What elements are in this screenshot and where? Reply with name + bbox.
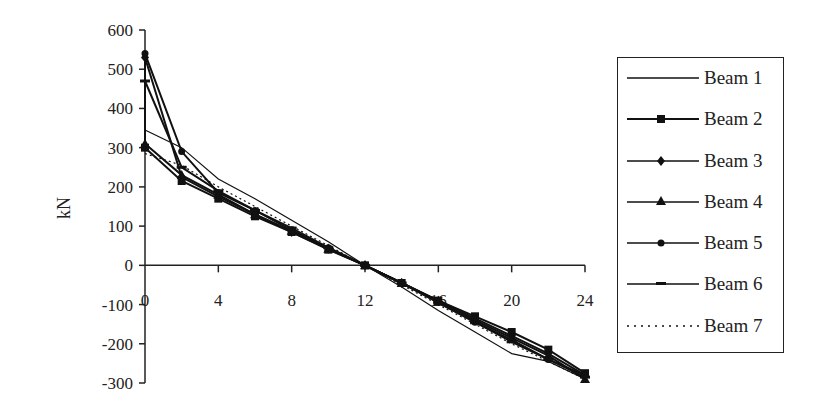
series-beam-3 — [141, 52, 589, 380]
legend-item-beam-1: Beam 1 — [618, 63, 783, 93]
legend-item-beam-3: Beam 3 — [618, 146, 783, 176]
legend-label: Beam 5 — [704, 232, 763, 254]
y-tick-label: 500 — [108, 60, 134, 79]
line-swatch-icon — [627, 68, 699, 88]
legend-item-beam-7: Beam 7 — [618, 311, 783, 341]
triangle-marker-icon — [627, 192, 699, 212]
legend-item-beam-4: Beam 4 — [618, 187, 783, 217]
x-tick-label: 12 — [357, 291, 374, 310]
y-tick-label: 300 — [108, 139, 134, 158]
y-tick-label: 0 — [125, 256, 134, 275]
square-marker-icon — [627, 109, 699, 129]
x-tick-label: 4 — [214, 291, 223, 310]
legend: Beam 1 Beam 2 Beam 3 Beam 4 Beam 5 Beam … — [617, 57, 784, 353]
x-axis: 04812162024 — [141, 265, 594, 310]
series-beam-6 — [140, 79, 590, 378]
legend-label: Beam 3 — [704, 150, 763, 172]
x-tick-label: 8 — [287, 291, 296, 310]
y-tick-label: 600 — [108, 21, 134, 40]
x-tick-label: 20 — [503, 291, 520, 310]
series-beam-5 — [142, 50, 589, 379]
y-axis-title: kN — [54, 197, 74, 219]
x-tick-label: 0 — [141, 291, 150, 310]
y-tick-label: 100 — [108, 217, 134, 236]
y-tick-label: 200 — [108, 178, 134, 197]
y-tick-label: 400 — [108, 99, 134, 118]
legend-label: Beam 2 — [704, 108, 763, 130]
legend-label: Beam 1 — [704, 67, 763, 89]
y-axis: 6005004003002001000-100-200-300 — [102, 21, 145, 393]
y-tick-label: -200 — [102, 335, 133, 354]
legend-label: Beam 7 — [704, 315, 763, 337]
diamond-marker-icon — [627, 151, 699, 171]
dash-marker-icon — [627, 274, 699, 294]
x-tick-label: 24 — [577, 291, 595, 310]
y-tick-label: -300 — [102, 374, 133, 393]
legend-label: Beam 6 — [704, 273, 763, 295]
dotted-line-icon — [627, 316, 699, 336]
series-layer — [140, 50, 590, 383]
legend-item-beam-6: Beam 6 — [618, 269, 783, 299]
y-tick-label: -100 — [102, 296, 133, 315]
legend-label: Beam 4 — [704, 191, 763, 213]
legend-item-beam-2: Beam 2 — [618, 104, 783, 134]
circle-marker-icon — [627, 233, 699, 253]
legend-item-beam-5: Beam 5 — [618, 228, 783, 258]
